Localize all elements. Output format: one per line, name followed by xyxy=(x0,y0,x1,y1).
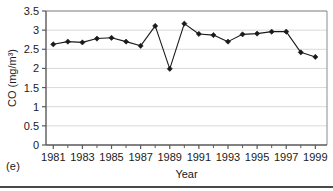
gridlines xyxy=(46,11,327,126)
data-point: 1983: 2.68 xyxy=(80,40,85,45)
x-tick-label: 1993 xyxy=(216,151,240,163)
x-tick-label: 1997 xyxy=(274,151,298,163)
y-tick-label: 3 xyxy=(33,24,39,36)
data-point: 1995: 2.91 xyxy=(255,31,260,36)
y-tick-label: 1 xyxy=(33,101,39,113)
y-axis-ticks: 00.511.522.533.5 xyxy=(24,5,46,151)
x-tick-label: 1987 xyxy=(128,151,152,163)
y-tick-label: 2 xyxy=(33,62,39,74)
y-axis-title: CO (mg/m³) xyxy=(6,49,18,107)
x-tick-label: 1981 xyxy=(41,151,65,163)
data-point: 1992: 2.87 xyxy=(211,33,216,38)
x-tick-label: 1985 xyxy=(99,151,123,163)
data-point: 1981: 2.63 xyxy=(51,42,56,47)
x-tick-label: 1983 xyxy=(70,151,94,163)
x-tick-label: 1995 xyxy=(245,151,269,163)
data-markers: 1981: 2.631982: 2.71983: 2.681984: 2.781… xyxy=(51,21,318,71)
x-tick-label: 1999 xyxy=(303,151,327,163)
data-point: 1993: 2.7 xyxy=(225,39,230,44)
y-tick-label: 1.5 xyxy=(24,82,39,94)
y-tick-label: 0.5 xyxy=(24,120,39,132)
data-point: 1982: 2.7 xyxy=(65,39,70,44)
x-axis-ticks: 1981198319851987198919911993199519971999 xyxy=(41,145,328,163)
data-point: 1985: 2.8 xyxy=(109,35,114,40)
y-tick-label: 2.5 xyxy=(24,43,39,55)
data-point: 1999: 2.3 xyxy=(313,54,318,59)
x-axis-title: Year xyxy=(175,168,198,180)
x-tick-label: 1991 xyxy=(187,151,211,163)
figure-panel-e: 00.511.522.533.5198119831985198719891991… xyxy=(0,0,333,191)
data-point: 1994: 2.89 xyxy=(240,32,245,37)
data-point: 1986: 2.7 xyxy=(123,39,128,44)
co-time-series-chart: 00.511.522.533.5198119831985198719891991… xyxy=(0,0,333,191)
panel-label: (e) xyxy=(6,160,20,172)
y-tick-label: 3.5 xyxy=(24,5,39,17)
x-tick-label: 1989 xyxy=(158,151,182,163)
y-tick-label: 0 xyxy=(33,139,39,151)
data-point: 1984: 2.78 xyxy=(94,36,99,41)
data-point: 1989: 1.99 xyxy=(167,66,172,71)
bottom-divider xyxy=(0,186,333,188)
